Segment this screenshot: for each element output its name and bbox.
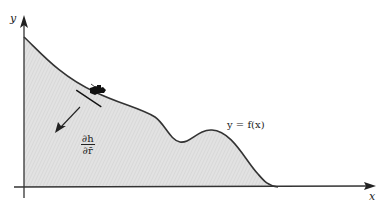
area-under-curve — [24, 37, 278, 187]
gradient-denominator: ∂r̄ — [81, 145, 95, 156]
gradient-numerator: ∂h — [81, 133, 95, 145]
x-axis-label: x — [369, 190, 375, 203]
y-axis-label: y — [10, 12, 16, 25]
curve-label: y = f(x) — [227, 119, 265, 130]
gradient-label: ∂h ∂r̄ — [81, 133, 95, 156]
hillside-gradient-diagram: y x y = f(x) ∂h ∂r̄ — [0, 0, 384, 205]
diagram-canvas — [0, 0, 384, 205]
